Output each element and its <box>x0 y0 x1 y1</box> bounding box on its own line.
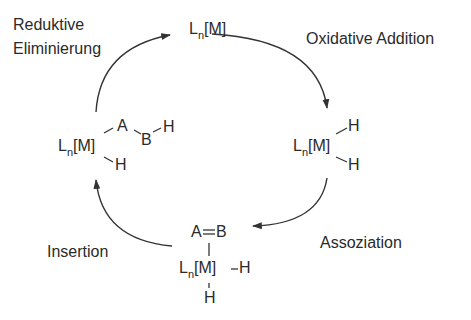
right-hydride-top: H <box>348 117 360 135</box>
metal-symbol: [M] <box>308 137 330 154</box>
species-top-catalyst: Ln[M] <box>189 20 226 39</box>
label-association: Assoziation <box>320 234 402 252</box>
bottom-hydride-below: H <box>204 289 216 307</box>
left-atom-B: B <box>141 131 152 149</box>
metal-symbol: [M] <box>194 259 216 276</box>
label-reductive-line2: Eliminierung <box>13 40 101 58</box>
label-insertion: Insertion <box>47 243 108 261</box>
ligand-symbol: L <box>58 137 67 154</box>
label-oxidative-addition: Oxidative Addition <box>306 30 434 48</box>
ligand-symbol: L <box>179 259 188 276</box>
label-reductive-elimination: Reduktive Eliminierung <box>13 16 101 58</box>
metal-symbol: [M] <box>204 20 226 37</box>
bottom-hydride-right: H <box>239 259 251 277</box>
left-hydride-on-M: H <box>115 156 127 174</box>
ligand-symbol: L <box>293 137 302 154</box>
metal-symbol: [M] <box>73 137 95 154</box>
ligand-count: n <box>188 268 194 280</box>
right-hydride-bottom: H <box>348 156 360 174</box>
ligand-count: n <box>198 29 204 41</box>
ligand-symbol: L <box>189 20 198 37</box>
ligand-count: n <box>67 146 73 158</box>
label-reductive-line1: Reduktive <box>13 16 101 34</box>
species-right-dihydride: Ln[M] <box>293 137 330 156</box>
left-hydride-on-B: H <box>163 118 175 136</box>
bottom-atom-A: A <box>191 223 202 241</box>
species-left-insertion-product: Ln[M] <box>58 137 95 156</box>
bottom-atom-B: B <box>216 223 227 241</box>
left-atom-A: A <box>117 117 128 135</box>
ligand-count: n <box>302 146 308 158</box>
species-bottom-complex: Ln[M] <box>179 259 216 278</box>
